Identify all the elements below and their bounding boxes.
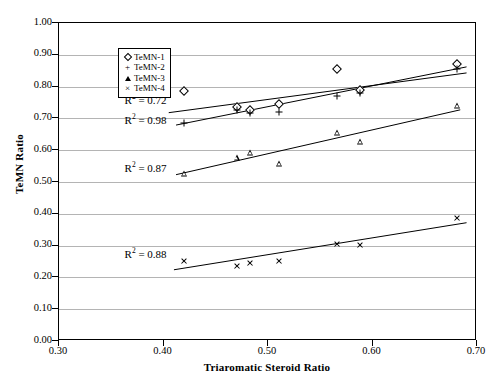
legend-item-temn-3: TeMN-3 (122, 73, 165, 83)
legend-item-label: TeMN-3 (133, 73, 165, 83)
data-point-temn-1 (337, 69, 338, 70)
data-point-temn-3 (184, 174, 185, 175)
trend-line-temn-2 (176, 67, 467, 125)
legend-item-temn-1: TeMN-1 (122, 52, 165, 62)
y-tick-label: 1.00 (6, 17, 52, 27)
data-point-temn-4 (184, 261, 185, 262)
trend-line-temn-3 (176, 110, 460, 175)
y-tick-label: 0.90 (6, 48, 52, 58)
data-point-temn-1 (184, 91, 185, 92)
data-point-temn-2 (250, 113, 251, 114)
data-point-temn-2 (337, 96, 338, 97)
y-tick-label: 0.70 (6, 112, 52, 122)
x-icon: × (122, 83, 133, 93)
data-point-temn-3 (337, 133, 338, 134)
x-tick-label: 0.50 (237, 345, 297, 356)
y-tick-label: 0.10 (6, 303, 52, 313)
y-tick-label: 0.00 (6, 335, 52, 345)
chart-figure: TeMN Ratio 0.000.100.200.300.400.500.600… (0, 0, 503, 387)
data-point-temn-4 (360, 245, 361, 246)
y-tick-label: 0.60 (6, 144, 52, 154)
y-tick-label: 0.50 (6, 176, 52, 186)
legend-item-label: TeMN-1 (133, 52, 165, 62)
data-point-temn-3 (279, 164, 280, 165)
legend-item-temn-2: +TeMN-2 (122, 62, 165, 72)
x-tick-label: 0.30 (28, 345, 88, 356)
y-axis-title: TeMN Ratio (13, 109, 25, 219)
triangle-icon (122, 73, 133, 83)
trend-line-temn-1 (169, 73, 467, 113)
y-tick-label: 0.30 (6, 239, 52, 249)
legend-item-label: TeMN-2 (133, 62, 165, 72)
r-squared-label: R2 = 0.87 (107, 160, 167, 174)
trend-line-temn-4 (174, 223, 467, 270)
legend-item-temn-4: ×TeMN-4 (122, 83, 165, 93)
diamond-icon (122, 52, 133, 62)
data-point-temn-4 (337, 244, 338, 245)
x-tick-label: 0.60 (342, 345, 402, 356)
plot-area: R2 = 0.72R2 = 0.98R2 = 0.87R2 = 0.88 TeM… (58, 22, 476, 340)
legend: TeMN-1+TeMN-2TeMN-3×TeMN-4 (118, 48, 171, 98)
data-point-temn-3 (250, 153, 251, 154)
data-point-temn-4 (457, 218, 458, 219)
y-tick-label: 0.40 (6, 207, 52, 217)
data-point-temn-4 (237, 266, 238, 267)
x-axis-title: Triaromatic Steroid Ratio (58, 361, 476, 373)
data-point-temn-3 (237, 158, 238, 159)
r-squared-label: R2 = 0.98 (107, 112, 167, 126)
data-point-temn-2 (360, 93, 361, 94)
data-point-temn-2 (279, 112, 280, 113)
data-point-temn-2 (237, 110, 238, 111)
y-tick-label: 0.80 (6, 80, 52, 90)
data-point-temn-2 (184, 123, 185, 124)
data-point-temn-3 (457, 106, 458, 107)
data-point-temn-4 (250, 263, 251, 264)
r-squared-label: R2 = 0.88 (107, 246, 167, 260)
data-point-temn-1 (279, 104, 280, 105)
x-tick-label: 0.70 (446, 345, 503, 356)
plus-icon: + (122, 62, 133, 72)
data-point-temn-3 (360, 142, 361, 143)
data-point-temn-4 (279, 261, 280, 262)
legend-item-label: TeMN-4 (133, 83, 165, 93)
y-tick-label: 0.20 (6, 271, 52, 281)
data-point-temn-2 (457, 69, 458, 70)
x-tick-label: 0.40 (133, 345, 193, 356)
